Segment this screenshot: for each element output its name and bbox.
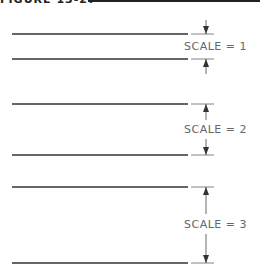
scale-label-1: SCALE = 1: [184, 40, 247, 53]
scale-label-2: SCALE = 2: [184, 123, 247, 136]
scale-label-3: SCALE = 3: [184, 218, 247, 231]
